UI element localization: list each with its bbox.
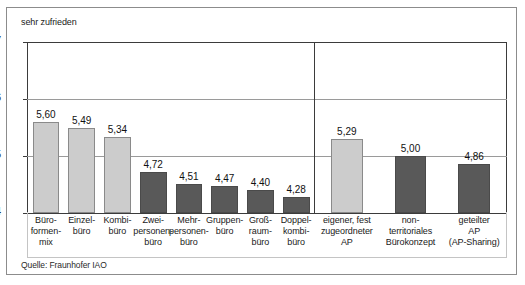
- source-note: Quelle: Fraunhofer IAO: [21, 260, 107, 270]
- bar-value-label: 4,72: [135, 159, 171, 170]
- bar-value-label: 5,49: [64, 115, 100, 126]
- bar-value-label: 4,40: [243, 177, 279, 188]
- gridline-6: [27, 99, 507, 100]
- tick-mark-6: [23, 99, 27, 100]
- bar: [33, 122, 60, 213]
- plot-area: 7654 5,605,495,344,724,514,474,404,285,2…: [27, 35, 507, 213]
- category-label: geteilterAP(AP-Sharing): [436, 215, 512, 248]
- bar: [140, 172, 167, 213]
- category-axis-labels: Büro-formen-mixEinzel-büroKombi-büroZwei…: [27, 215, 507, 257]
- bar: [104, 137, 131, 213]
- bar: [68, 128, 95, 213]
- y-axis-line: [27, 42, 28, 213]
- bar: [458, 164, 490, 213]
- bar-value-label: 5,00: [379, 143, 443, 154]
- y-axis-caption: sehr zufrieden: [21, 17, 77, 27]
- bar-value-label: 4,28: [278, 184, 314, 195]
- bar-value-label: 5,34: [100, 124, 136, 135]
- chart-figure: sehr zufrieden 7654 5,605,495,344,724,51…: [6, 7, 517, 275]
- category-label-line: büro: [165, 237, 213, 248]
- bar: [331, 139, 363, 213]
- category-label-line: AP: [436, 226, 512, 237]
- bar-value-label: 5,29: [315, 126, 379, 137]
- tick-mark-4: [23, 213, 27, 214]
- tick-mark-5: [23, 156, 27, 157]
- category-label-line: geteilter: [436, 215, 512, 226]
- gridline-5: [27, 156, 507, 157]
- bar-value-label: 4,47: [207, 173, 243, 184]
- category-label-line: mix: [22, 237, 70, 248]
- bar: [395, 156, 427, 213]
- bar: [176, 184, 203, 213]
- category-label-line: (AP-Sharing): [436, 237, 512, 248]
- y-tick-label: 5: [0, 149, 1, 160]
- gridline-4: [27, 213, 507, 214]
- bar: [247, 190, 274, 213]
- bar-value-label: 5,60: [28, 109, 64, 120]
- plot-right-border: [506, 42, 507, 213]
- bar: [283, 197, 310, 213]
- y-tick-label: 4: [0, 206, 1, 217]
- gridline-7: [27, 42, 507, 43]
- y-tick-label: 6: [0, 92, 1, 103]
- y-tick-label: 7: [0, 35, 1, 46]
- tick-mark-7: [23, 42, 27, 43]
- bar: [211, 186, 238, 213]
- bar-value-label: 4,86: [442, 151, 506, 162]
- bar-value-label: 4,51: [171, 171, 207, 182]
